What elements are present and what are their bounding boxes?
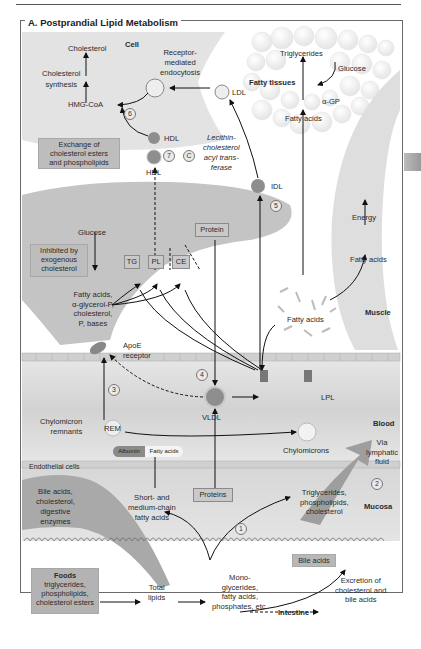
triglycerides-label: Triglycerides bbox=[280, 49, 323, 58]
step-4: 4 bbox=[196, 369, 208, 381]
bile-digestive-label: Bile acids,cholesterol,digestiveenzymes bbox=[36, 487, 75, 527]
protein-box: Protein bbox=[195, 223, 229, 237]
pl-box: PL bbox=[148, 255, 164, 269]
energy-label: Energy bbox=[352, 213, 376, 222]
figure-title: A. Postprandial Lipid Metabolism bbox=[25, 17, 181, 28]
albumin-pill: Albumin bbox=[113, 446, 145, 457]
vldl-particle bbox=[205, 387, 225, 407]
region-label-blood: Blood bbox=[373, 419, 395, 428]
tg-box: TG bbox=[124, 255, 140, 269]
lcat-label: Lecithin-cholesterolacyl trans-ferase bbox=[203, 133, 240, 173]
albumin-fatty-acids-pill: Fatty acids bbox=[145, 446, 183, 457]
blood-region bbox=[22, 355, 400, 463]
fat-fatty-acids-label: Fatty acids bbox=[285, 114, 322, 123]
muscle-fatty-acids-label: Fatty acids bbox=[350, 255, 387, 264]
step-7: 7 bbox=[163, 150, 175, 162]
idl-label: IDL bbox=[271, 182, 283, 191]
total-lipids-label: Totallipids bbox=[148, 583, 165, 603]
vldl-label: VLDL bbox=[202, 413, 221, 422]
step-5: 5 bbox=[270, 200, 282, 212]
idl-particle bbox=[251, 179, 265, 193]
hdl-top-particle bbox=[148, 132, 160, 144]
bile-acids-box: Bile acids bbox=[292, 554, 336, 567]
ldl-particle bbox=[215, 85, 229, 99]
hmg-coa-label: HMG-CoA bbox=[68, 100, 103, 109]
glucose-fat-label: Glucose bbox=[338, 64, 366, 73]
alpha-gp-label: α-GP bbox=[322, 97, 340, 106]
exchange-box: Exchange ofcholesterol estersand phospho… bbox=[38, 138, 120, 169]
endothelium-top bbox=[22, 353, 400, 361]
receptor-endocytosis-label: Receptor-mediatedendocytosis bbox=[160, 48, 200, 78]
lpl-anchor-1 bbox=[260, 370, 268, 382]
lpl-anchor-2 bbox=[304, 370, 312, 382]
hdl-top-label: HDL bbox=[164, 134, 179, 143]
short-medium-label: Short- andmedium-chainfatty acids bbox=[128, 493, 176, 523]
ldl-label: LDL bbox=[232, 88, 246, 97]
region-label-endothelial: Endothelial cells bbox=[29, 462, 80, 471]
region-label-intestine: Intestine bbox=[278, 608, 309, 617]
apoe-receptor-label: ApoEreceptor bbox=[123, 341, 151, 361]
chylomicron-remnants-label: Chylomicronremnants bbox=[40, 417, 82, 437]
chylomicrons-label: Chylomicrons bbox=[283, 446, 329, 455]
hdl-bottom-label: HDL bbox=[146, 168, 161, 177]
inhibited-box: Inhibited byexogenouscholesterol bbox=[30, 244, 88, 277]
endosome bbox=[146, 79, 164, 97]
foods-box: Foods triglycerides,phospholipids,choles… bbox=[31, 568, 99, 614]
step-6: 6 bbox=[124, 108, 136, 120]
rem-label: REM bbox=[104, 424, 121, 433]
liver-products-label: Fatty acids,α-glycerol-P,cholesterol,P, … bbox=[72, 290, 114, 328]
fatty-acid-fragments bbox=[278, 288, 336, 336]
ce-box: CE bbox=[172, 255, 190, 269]
hdl-bottom-particle bbox=[147, 150, 161, 164]
region-label-fatty-tissues: Fatty tissues bbox=[249, 78, 295, 87]
region-label-cell: Cell bbox=[125, 40, 139, 49]
chylomicron-particle bbox=[298, 423, 316, 441]
lpl-label: LPL bbox=[321, 393, 335, 402]
cholesterol-synthesis-label: Cholesterolsynthesis bbox=[42, 68, 80, 90]
diagram-background bbox=[0, 0, 421, 649]
monoglycerides-label: Mono-glycerides,fatty acids,phosphates, … bbox=[212, 573, 268, 611]
region-label-mucosa: Mucosa bbox=[364, 502, 392, 511]
blood-fatty-acids-label: Fatty acids bbox=[287, 315, 324, 324]
cholesterol-label: Cholesterol bbox=[68, 44, 106, 53]
via-lymphatic-label: Vialymphaticfluid bbox=[366, 438, 398, 467]
tg-pl-chol-label: Triglycerides,phospholipids,cholesterol bbox=[300, 488, 349, 517]
region-label-muscle: Muscle bbox=[365, 308, 391, 317]
step-c-marker: C bbox=[183, 150, 195, 162]
step-2: 2 bbox=[371, 478, 383, 490]
excretion-label: Excretion ofcholesterol andbile acids bbox=[335, 576, 387, 605]
proteins-box: Proteins bbox=[193, 488, 233, 502]
step-3: 3 bbox=[108, 384, 120, 396]
liver-glucose-label: Glucose bbox=[78, 228, 106, 237]
step-1: 1 bbox=[235, 523, 247, 535]
